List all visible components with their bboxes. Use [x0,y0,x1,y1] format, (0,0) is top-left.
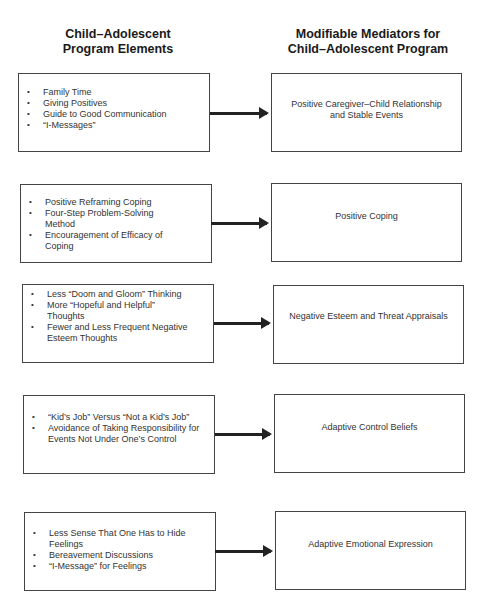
program-elements-box-1: Family Time Giving Positives Guide to Go… [18,73,210,152]
mediator-line: Adaptive Emotional Expression [280,539,461,550]
program-elements-box-4: “Kid’s Job” Versus “Not a Kid’s Job” Avo… [23,395,215,474]
element-list: “Kid’s Job” Versus “Not a Kid’s Job” Avo… [32,412,208,445]
program-elements-box-3: Less “Doom and Gloom” Thinking More “Hop… [22,284,214,363]
program-elements-header: Child–Adolescent Program Elements [18,27,218,57]
mediator-line: Negative Esteem and Threat Appraisals [278,311,459,322]
arrow-icon [215,433,270,436]
mediator-box-5: Adaptive Emotional Expression [275,511,466,590]
arrow-icon [210,112,267,115]
element-item: Encouragement of Efficacy of Coping [29,230,181,252]
element-item: Less “Doom and Gloom” Thinking [31,289,191,300]
mediator-label: Positive Caregiver–Child Relationship an… [276,99,457,121]
mediator-box-4: Adaptive Control Beliefs [274,394,465,473]
element-item: Less Sense That One Has to Hide Feelings [33,528,197,550]
element-list: Less “Doom and Gloom” Thinking More “Hop… [31,289,191,344]
element-item: Giving Positives [27,98,203,109]
element-item: Family Time [27,87,203,98]
header-line: Child–Adolescent [18,27,218,42]
element-item: Avoidance of Taking Responsibility for E… [32,423,208,445]
mediator-label: Adaptive Emotional Expression [280,539,461,550]
element-item: Positive Reframing Coping [29,197,181,208]
mediator-line: and Stable Events [276,110,457,121]
element-item: “I-Messages” [27,120,203,131]
element-item: Bereavement Discussions [33,550,197,561]
header-line: Program Elements [18,42,218,57]
mediator-line: Positive Caregiver–Child Relationship [276,99,457,110]
element-item: “Kid’s Job” Versus “Not a Kid’s Job” [32,412,208,423]
mediators-header: Modifiable Mediators for Child–Adolescen… [268,27,468,57]
arrow-icon [214,322,269,325]
mediator-box-2: Positive Coping [271,183,462,262]
mediator-label: Negative Esteem and Threat Appraisals [278,311,459,322]
element-list: Family Time Giving Positives Guide to Go… [27,87,203,131]
mediator-label: Adaptive Control Beliefs [279,422,460,433]
program-elements-box-5: Less Sense That One Has to Hide Feelings… [24,512,216,591]
mediator-line: Positive Coping [276,211,457,222]
mediator-line: Adaptive Control Beliefs [279,422,460,433]
element-list: Positive Reframing Coping Four-Step Prob… [29,197,181,252]
header-line: Child–Adolescent Program [268,42,468,57]
element-item: Fewer and Less Frequent Negative Esteem … [31,322,191,344]
arrow-icon [211,222,267,225]
element-list: Less Sense That One Has to Hide Feelings… [33,528,197,572]
mediator-box-3: Negative Esteem and Threat Appraisals [273,285,464,364]
program-elements-box-2: Positive Reframing Coping Four-Step Prob… [20,184,212,263]
mediator-box-1: Positive Caregiver–Child Relationship an… [271,73,462,152]
element-item: Guide to Good Communication [27,109,203,120]
element-item: “I-Message” for Feelings [33,561,197,572]
header-line: Modifiable Mediators for [268,27,468,42]
arrow-icon [215,550,271,553]
element-item: More “Hopeful and Helpful” Thoughts [31,300,191,322]
mediator-label: Positive Coping [276,211,457,222]
element-item: Four-Step Problem-Solving Method [29,208,181,230]
